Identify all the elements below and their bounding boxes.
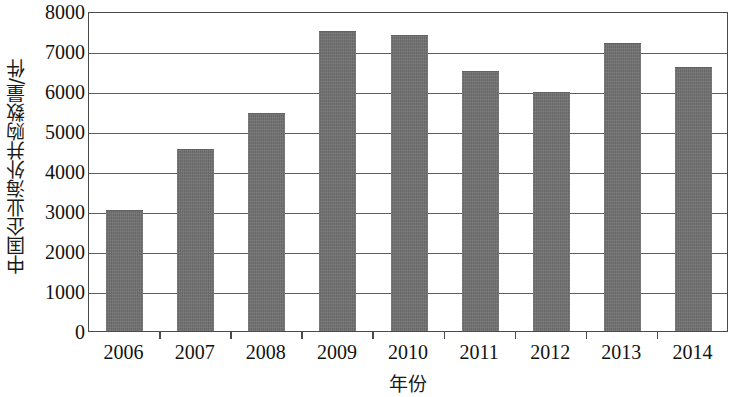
y-axis-title: 中国企业海外并购数量/件	[0, 0, 30, 334]
bar	[533, 92, 570, 331]
y-axis-tick-label: 0	[30, 322, 85, 342]
bar	[248, 113, 285, 331]
x-axis-title: 年份	[88, 369, 728, 396]
y-axis-tick-label: 6000	[30, 82, 85, 102]
y-axis-tick-label: 1000	[30, 282, 85, 302]
bar	[319, 31, 356, 331]
y-axis-tick-label: 5000	[30, 122, 85, 142]
y-axis-title-text: 中国企业海外并购数量/件	[2, 59, 29, 274]
x-axis-tick-label: 2014	[672, 341, 712, 363]
x-axis-tick-labels: 200620072008200920102011201220132014	[88, 341, 728, 371]
y-axis-tick-label: 4000	[30, 162, 85, 182]
x-axis-tick-marks	[88, 332, 728, 340]
x-axis-tick-label: 2011	[459, 341, 498, 363]
x-axis-tick-mark	[586, 332, 588, 339]
x-axis-tick-mark	[657, 332, 659, 339]
y-axis-tick-labels: 010002000300040005000600070008000	[30, 0, 85, 340]
bar	[106, 210, 143, 331]
x-axis-tick-label: 2012	[530, 341, 570, 363]
bar-series	[89, 13, 727, 331]
x-axis-tick-label: 2006	[104, 341, 144, 363]
x-axis-tick-mark	[515, 332, 517, 339]
y-axis-tick-label: 7000	[30, 42, 85, 62]
bar-chart-figure: 中国企业海外并购数量/件 010002000300040005000600070…	[0, 0, 734, 397]
bar	[177, 149, 214, 331]
bar	[462, 71, 499, 331]
x-axis-tick-label: 2009	[317, 341, 357, 363]
x-axis-tick-mark	[444, 332, 446, 339]
bar	[604, 43, 641, 331]
x-axis-tick-label: 2013	[601, 341, 641, 363]
bar	[675, 67, 712, 331]
y-axis-tick-label: 8000	[30, 2, 85, 22]
y-axis-tick-label: 2000	[30, 242, 85, 262]
x-axis-tick-label: 2008	[246, 341, 286, 363]
x-axis-tick-label: 2010	[388, 341, 428, 363]
plot-area	[88, 12, 728, 332]
x-axis-tick-mark	[372, 332, 374, 339]
x-axis-tick-mark	[230, 332, 232, 339]
bar	[391, 35, 428, 331]
y-axis-tick-label: 3000	[30, 202, 85, 222]
x-axis-tick-mark	[159, 332, 161, 339]
x-axis-tick-mark	[301, 332, 303, 339]
x-axis-tick-label: 2007	[175, 341, 215, 363]
